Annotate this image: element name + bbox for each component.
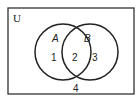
set-b-label: B (84, 33, 91, 44)
region-2-label: 2 (72, 52, 78, 63)
set-a-circle (35, 24, 91, 80)
region-3-label: 3 (92, 52, 98, 63)
universe-label: U (13, 12, 21, 24)
set-a-label: A (51, 33, 59, 44)
universe-rectangle (8, 8, 134, 94)
region-1-label: 1 (51, 52, 57, 63)
region-4-label: 4 (73, 83, 79, 94)
venn-diagram: U A B 1 2 3 4 (0, 0, 140, 103)
